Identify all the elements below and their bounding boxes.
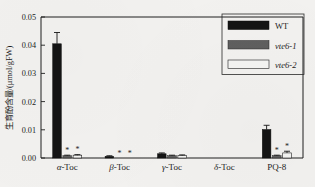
legend-label-wt: WT xyxy=(275,21,289,31)
bar-vte6-1 xyxy=(63,156,72,158)
category-suffix: -Toc xyxy=(218,162,234,172)
x-axis-labels: α-Tocβ-Tocγ-Tocδ-TocPQ-8 xyxy=(57,162,287,172)
bar-wt xyxy=(105,156,114,158)
significance-marker: * xyxy=(75,145,79,154)
x-axis-category-label: β-Toc xyxy=(108,162,130,172)
x-axis-category-label: PQ-8 xyxy=(267,162,287,172)
x-axis-category-label: δ-Toc xyxy=(214,162,235,172)
category-suffix: -Toc xyxy=(61,162,77,172)
bar-wt xyxy=(53,44,62,158)
bars-layer: ****** xyxy=(53,33,292,158)
category-suffix: -Toc xyxy=(114,162,130,172)
error-bar xyxy=(264,125,270,129)
x-axis-category-label: γ-Toc xyxy=(162,162,182,172)
legend-label-vte6-2: vte6-2 xyxy=(275,60,297,70)
y-axis-title-label: 生育酚含量/(μmol/gFW) xyxy=(4,46,14,131)
significance-marker: * xyxy=(128,149,132,158)
significance-marker: * xyxy=(65,146,69,155)
bar-vte6-2 xyxy=(73,155,82,158)
bar-wt xyxy=(262,130,271,158)
x-axis-category-label: α-Toc xyxy=(57,162,78,172)
bar-vte6-1 xyxy=(273,156,282,158)
y-tick-label: 0.01 xyxy=(22,126,36,135)
y-axis-title: 生育酚含量/(μmol/gFW) xyxy=(4,46,14,131)
significance-marker: * xyxy=(118,149,122,158)
error-bar xyxy=(54,33,60,44)
legend-swatch-wt-swatch xyxy=(228,21,269,30)
legend-swatch-vte6-1-swatch xyxy=(228,41,269,50)
chart-canvas: 生育酚含量/(μmol/gFW) 0.000.010.020.030.040.0… xyxy=(0,0,315,187)
y-axis-ticks: 0.000.010.020.030.040.05 xyxy=(22,13,45,163)
legend-label-vte6-1: vte6-1 xyxy=(275,41,296,51)
y-tick-label: 0.02 xyxy=(22,98,36,107)
significance-marker: * xyxy=(285,142,289,151)
bar-wt xyxy=(158,154,167,158)
y-tick-label: 0.03 xyxy=(22,69,36,78)
y-tick-label: 0.05 xyxy=(22,13,36,22)
y-tick-label: 0.00 xyxy=(22,154,36,163)
bar-vte6-2 xyxy=(178,155,187,158)
significance-marker: * xyxy=(275,146,279,155)
bar-chart-figure: 生育酚含量/(μmol/gFW) 0.000.010.020.030.040.0… xyxy=(0,0,315,187)
legend-swatch-vte6-2-swatch xyxy=(228,60,269,69)
bar-vte6-1 xyxy=(168,156,177,158)
bar-vte6-2 xyxy=(283,153,292,158)
chart-legend: WTvte6-1vte6-2 xyxy=(222,14,304,75)
category-suffix: -Toc xyxy=(166,162,182,172)
y-tick-label: 0.04 xyxy=(22,41,36,50)
